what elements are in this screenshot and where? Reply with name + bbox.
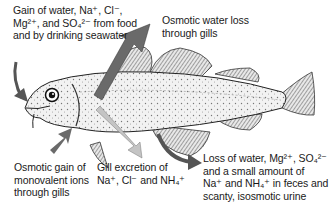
label-osmotic-gain-ions: Osmotic gain of monovalent ions through … [14,161,89,199]
inflow-mouth-arrow [14,62,28,102]
label-osmotic-water-loss: Osmotic water loss through gills [162,14,249,39]
label-gain-food-seawater: Gain of water, Na⁺, Cl⁻, Mg²⁺, and SO₄²⁻… [13,4,137,42]
label-gill-excretion: Gill excretion of Na⁺, Cl⁻ and NH₄⁺ [97,161,185,186]
tail-fin [280,72,315,115]
label-loss-feces-urine: Loss of water, Mg²⁺, SO₄²⁻ and a small a… [203,152,328,202]
ion-gain-arrow [50,128,72,154]
